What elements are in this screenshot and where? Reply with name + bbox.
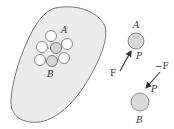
- label-A-cluster: A: [60, 25, 68, 35]
- particle-B: [131, 93, 149, 111]
- diagram-canvas: A B A P F −F P B: [0, 0, 174, 129]
- label-P-A: P: [135, 51, 143, 61]
- label-A-fbd: A: [132, 20, 140, 30]
- label-P-B: P: [150, 84, 158, 94]
- body-outline: [11, 7, 106, 123]
- label-B-fbd: B: [135, 115, 143, 125]
- label-B-cluster: B: [46, 69, 54, 79]
- label-F: F: [110, 68, 116, 78]
- label-minus-F: −F: [155, 61, 169, 71]
- particle-A: [128, 33, 144, 49]
- force-arrow-F: [120, 51, 131, 71]
